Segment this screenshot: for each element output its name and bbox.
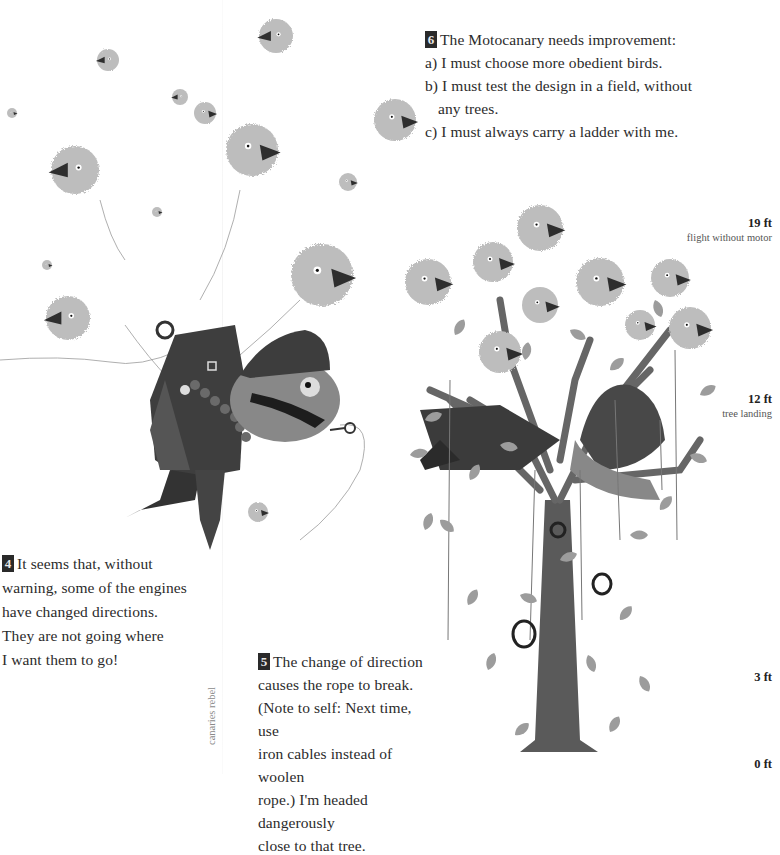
caption-line: warning, some of the engines	[2, 576, 212, 600]
caption-line: (Note to self: Next time, use	[258, 696, 428, 742]
height-marker-3ft: 3 ft	[754, 670, 772, 685]
height-value: 12 ft	[722, 392, 772, 407]
caption-line: The Motocanary needs improvement:	[440, 31, 676, 48]
caption-line: They are not going where	[2, 624, 212, 648]
caption-step-5: 5The change of direction causes the rope…	[258, 650, 428, 855]
height-caption: flight without motor	[687, 231, 772, 244]
caption-line: c) I must always carry a ladder with me.	[425, 120, 755, 143]
caption-line: close to that tree.	[258, 834, 428, 855]
caption-line: b) I must test the design in a field, wi…	[425, 74, 755, 97]
pilot-character-icon	[125, 322, 355, 550]
height-marker-19ft: 19 ft flight without motor	[687, 216, 772, 244]
caption-line: causes the rope to break.	[258, 673, 428, 696]
height-caption: tree landing	[722, 407, 772, 420]
page-credit: canaries rebel	[206, 687, 217, 745]
step-number-badge: 4	[2, 555, 14, 572]
caption-line: iron cables instead of woolen	[258, 742, 428, 788]
step-number-badge: 6	[425, 31, 437, 48]
caption-line: It seems that, without	[17, 555, 153, 572]
caption-line: a) I must choose more obedient birds.	[425, 51, 755, 74]
height-value: 19 ft	[687, 216, 772, 231]
caption-line: rope.) I'm headed dangerously	[258, 788, 428, 834]
step-number-badge: 5	[258, 653, 270, 670]
height-marker-12ft: 12 ft tree landing	[722, 392, 772, 420]
height-marker-0ft: 0 ft	[754, 757, 772, 772]
tree-icon	[405, 205, 713, 752]
caption-line: The change of direction	[273, 653, 423, 670]
caption-line: I want them to go!	[2, 648, 212, 672]
caption-line: any trees.	[425, 97, 755, 120]
caption-step-6: 6The Motocanary needs improvement: a) I …	[425, 28, 755, 143]
caption-line: have changed directions.	[2, 600, 212, 624]
height-value: 3 ft	[754, 670, 772, 685]
caption-step-4: 4It seems that, without warning, some of…	[2, 552, 212, 672]
height-value: 0 ft	[754, 757, 772, 772]
